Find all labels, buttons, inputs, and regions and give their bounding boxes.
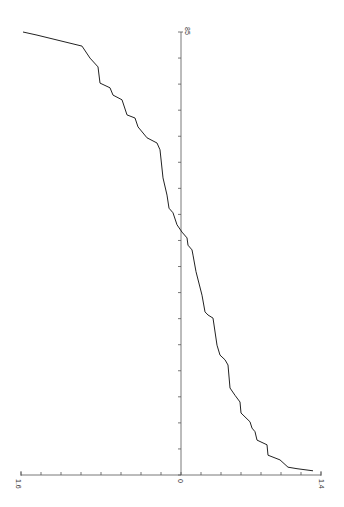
- index-axis: [178, 32, 183, 475]
- value-axis-zero-label: 0: [177, 479, 184, 483]
- value-axis-max-label: 1.4: [318, 479, 325, 489]
- value-axis-min-label: 1.6: [15, 479, 22, 489]
- value-axis: [21, 471, 321, 476]
- chart: 1.6 0 1.4 85: [0, 0, 344, 507]
- index-axis-max-label: 85: [184, 27, 191, 35]
- data-line: [23, 32, 313, 471]
